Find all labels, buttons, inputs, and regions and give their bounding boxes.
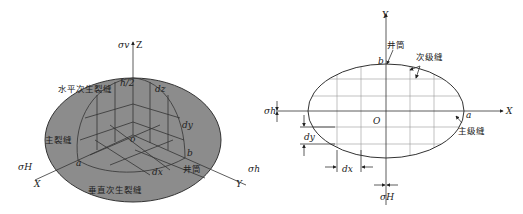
y-axis-label: Y [382, 10, 389, 20]
origin-label: O [373, 116, 381, 126]
main-fracture-label: 主裂缝 [45, 135, 72, 145]
b-label: b [187, 148, 193, 158]
a-label: a [76, 158, 81, 168]
y-axis-label: Y [236, 179, 243, 189]
z-axis-label: Z [136, 40, 142, 50]
vertical-secondary-label: 垂直次生裂缝 [88, 185, 142, 195]
b-label: b [378, 56, 384, 66]
sigma-H-label: σH [380, 192, 394, 202]
figure-canvas: Z σv X Y σH σh o h/2 dz dy dx a b 水平次生裂缝… [0, 0, 523, 214]
main-pointer [456, 116, 462, 123]
sigma-h-label: σh [264, 106, 276, 116]
sigma-H-label: σH [18, 162, 32, 172]
origin-label: o [130, 134, 136, 144]
main-label: 主级缝 [458, 126, 485, 136]
x-axis-label: X [33, 179, 41, 189]
h-half-label: h/2 [120, 78, 135, 88]
dy-label: dy [304, 132, 316, 142]
dx-label: dx [152, 167, 163, 177]
a-label: a [466, 110, 471, 120]
secondary-label: 次级缝 [416, 52, 443, 62]
dx-label: dx [342, 164, 353, 174]
dz-label: dz [155, 84, 166, 94]
wellbore-label: 井筒 [387, 40, 405, 50]
wellbore-label: 井筒 [183, 164, 201, 174]
right-figure: Y X O b a σh σH dy dx 井筒 次级缝 主级缝 [264, 10, 513, 205]
fracture-grid [300, 60, 470, 160]
sigma-v-label: σv [118, 40, 129, 50]
x-axis-label: X [505, 106, 513, 116]
horizontal-secondary-label: 水平次生裂缝 [58, 84, 112, 94]
left-figure: Z σv X Y σH σh o h/2 dz dy dx a b 水平次生裂缝… [18, 40, 260, 202]
sigma-h-label: σh [248, 164, 260, 174]
wellbore-pointer [387, 50, 393, 64]
dy-label: dy [182, 120, 194, 130]
